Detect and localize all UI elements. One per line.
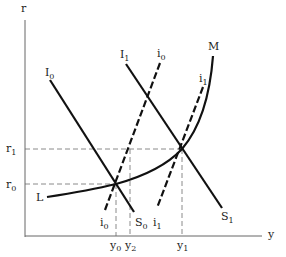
axes <box>25 20 262 237</box>
lm-m-label: M <box>208 40 219 53</box>
i0-s0-curve <box>50 80 134 212</box>
i0-top-label: I0 <box>45 66 54 81</box>
y1-label: y1 <box>176 239 188 253</box>
small-i0-bottom-label: i0 <box>100 216 109 231</box>
s0-label: S0 <box>135 216 148 231</box>
islm-diagram: r y r1 r0 y0 y2 y1 I0 S0 I1 S1 i0 i0 i1 … <box>0 0 286 257</box>
r0-label: r0 <box>6 178 16 193</box>
diagram-canvas: r y r1 r0 y0 y2 y1 I0 S0 I1 S1 i0 i0 i1 … <box>0 0 286 257</box>
y-axis-label: y <box>267 228 275 241</box>
r1-label: r1 <box>6 142 16 157</box>
i1-top-label: I1 <box>120 48 129 63</box>
small-i0-top-label: i0 <box>157 47 166 62</box>
i1-dashed-curve <box>157 87 203 208</box>
s1-label: S1 <box>221 210 234 225</box>
y0-label: y0 <box>109 239 121 253</box>
r-axis-label: r <box>21 2 27 15</box>
i0-dashed-curve <box>105 63 160 210</box>
y2-label: y2 <box>124 239 136 253</box>
small-i1-top-label: i1 <box>199 72 208 87</box>
lm-l-label: L <box>36 191 44 204</box>
small-i1-bottom-label: i1 <box>153 216 162 231</box>
